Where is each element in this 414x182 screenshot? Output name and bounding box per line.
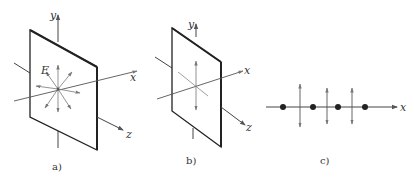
panel-a: y x z E a) [14, 9, 137, 172]
y-axis-label: y [49, 9, 57, 22]
z-axis-label: z [125, 128, 132, 141]
caption-c: c) [320, 155, 330, 166]
y-axis-label: y [187, 18, 195, 31]
x-axis-label: x [244, 64, 251, 77]
e-field-label: E [40, 64, 49, 77]
z-axis-label: z [245, 121, 252, 134]
x-axis-label: x [130, 71, 137, 84]
x-axis-label: x [400, 101, 407, 114]
vertical-arrows [300, 84, 352, 127]
z-axis [14, 63, 30, 73]
panel-b: y x z b) [155, 18, 252, 166]
caption-b: b) [186, 155, 196, 166]
caption-a: a) [52, 161, 62, 172]
z-axis [155, 57, 172, 68]
polarization-figure: y x z E a) y x z b) [0, 0, 414, 182]
panel-c: x c) [266, 84, 407, 166]
